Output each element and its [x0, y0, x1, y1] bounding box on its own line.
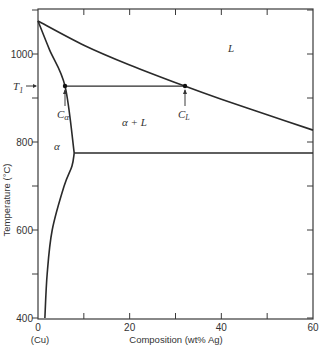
c-l-label: CL — [178, 108, 190, 122]
phase-label-liquid: L — [227, 42, 234, 54]
x-tick-label: 0 — [35, 322, 41, 333]
x-tick-label: 20 — [124, 322, 136, 333]
plot-frame — [38, 9, 313, 319]
cu-end-label: (Cu) — [31, 334, 49, 345]
phase-label-alpha-plus-liquid: α + L — [122, 116, 147, 128]
y-tick-label: 1000 — [11, 49, 34, 60]
liquidus-line — [38, 21, 313, 130]
y-tick-label: 600 — [16, 225, 33, 236]
t1-arrow-icon — [26, 84, 37, 88]
phase-label-alpha: α — [54, 140, 60, 152]
c-alpha-point — [63, 84, 67, 88]
y-tick-label: 400 — [16, 313, 33, 324]
solidus-line — [38, 21, 74, 153]
c-l-point — [183, 84, 187, 88]
axis-ticks — [32, 9, 313, 319]
y-axis-title: Temperature (°C) — [1, 164, 12, 237]
phase-boundaries — [38, 21, 313, 318]
c-l-arrow-icon — [183, 89, 187, 106]
t1-label: T1 — [13, 80, 23, 95]
x-tick-label: 40 — [216, 322, 228, 333]
solvus-line — [45, 153, 74, 318]
phase-diagram-chart: 02040604006008001000 T1 Cα CL L α + L α … — [0, 0, 328, 349]
axis-tick-labels: 02040604006008001000 — [11, 49, 319, 334]
y-tick-label: 800 — [16, 137, 33, 148]
x-axis-title: Composition (wt% Ag) — [129, 334, 222, 345]
c-alpha-label: Cα — [57, 108, 69, 122]
x-tick-label: 60 — [307, 322, 319, 333]
